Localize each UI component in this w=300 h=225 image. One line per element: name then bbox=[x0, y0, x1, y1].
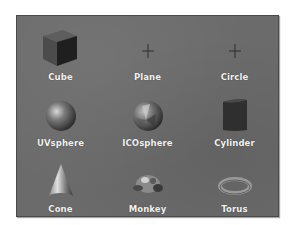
primitive-label: Cylinder bbox=[214, 138, 255, 148]
circle-icon bbox=[211, 26, 259, 70]
cylinder-icon bbox=[211, 92, 259, 136]
primitive-cube[interactable]: Cube bbox=[17, 18, 104, 84]
primitive-uvsphere[interactable]: UVsphere bbox=[17, 84, 104, 150]
primitive-cone[interactable]: Cone bbox=[17, 150, 104, 216]
plane-icon bbox=[124, 26, 172, 70]
primitive-label: Plane bbox=[134, 72, 161, 82]
primitive-icosphere[interactable]: ICOsphere bbox=[104, 84, 191, 150]
torus-icon bbox=[211, 158, 259, 202]
primitive-plane[interactable]: Plane bbox=[104, 18, 191, 84]
primitive-label: ICOsphere bbox=[122, 138, 172, 148]
uvsphere-icon bbox=[37, 92, 85, 136]
monkey-icon bbox=[124, 158, 172, 202]
primitive-monkey[interactable]: Monkey bbox=[104, 150, 191, 216]
primitive-label: Monkey bbox=[129, 204, 167, 214]
primitive-circle[interactable]: Circle bbox=[191, 18, 278, 84]
primitive-torus[interactable]: Torus bbox=[191, 150, 278, 216]
primitive-label: Torus bbox=[221, 204, 247, 214]
primitive-label: UVsphere bbox=[37, 138, 84, 148]
mesh-primitives-panel: Cube Plane Circle bbox=[16, 15, 279, 217]
icosphere-icon bbox=[124, 92, 172, 136]
primitive-label: Circle bbox=[221, 72, 249, 82]
primitive-label: Cone bbox=[48, 204, 72, 214]
primitive-cylinder[interactable]: Cylinder bbox=[191, 84, 278, 150]
primitive-label: Cube bbox=[48, 72, 73, 82]
cone-icon bbox=[37, 158, 85, 202]
cube-icon bbox=[37, 26, 85, 70]
